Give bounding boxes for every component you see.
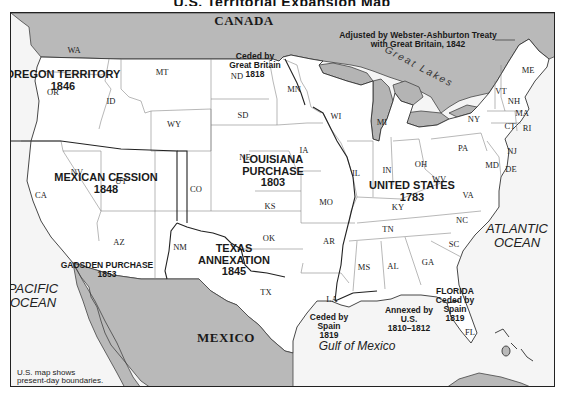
acquisition-label-texas-annexation: TEXASANNEXATION1845 [198, 243, 270, 278]
state-label-az: AZ [113, 238, 124, 247]
water-label-pacific: PACIFICOCEAN [10, 282, 58, 309]
state-label-id: ID [107, 97, 116, 106]
state-label-sc: SC [449, 240, 459, 249]
state-label-la: LA [326, 295, 337, 304]
state-label-wi: WI [331, 112, 342, 121]
state-label-ky: KY [392, 203, 404, 212]
state-label-ne: NE [239, 153, 250, 162]
state-label-vt: VT [495, 87, 506, 96]
country-label-mexico: MEXICO [197, 331, 255, 345]
state-label-ca: CA [35, 191, 47, 200]
country-label-canada: CANADA [214, 14, 273, 28]
state-label-ks: KS [265, 202, 276, 211]
state-label-oh: OH [415, 160, 427, 169]
state-label-ut: UT [115, 177, 126, 186]
state-label-wy: WY [167, 120, 181, 129]
state-label-ar: AR [323, 237, 335, 246]
state-label-nh: NH [508, 97, 520, 106]
state-label-nc: NC [456, 216, 468, 225]
state-label-wa: WA [67, 46, 80, 55]
state-label-md: MD [485, 161, 499, 170]
state-label-ms: MS [358, 263, 370, 272]
state-label-ma: MA [515, 109, 529, 118]
state-label-ny: NY [468, 115, 480, 124]
acquisition-label-mexican-cession: MEXICAN CESSION1848 [54, 172, 157, 195]
acquisition-label-oregon-territory: OREGON TERRITORY1846 [10, 69, 120, 92]
state-label-wv: WV [432, 175, 446, 184]
water-label-gulf: Gulf of Mexico [319, 340, 396, 353]
map-title-fragment: U.S. Territorial Expansion Map [0, 0, 564, 6]
acquisition-label-annexed-by-us: Annexed byU.S.1810–1812 [385, 306, 433, 333]
state-label-ct: CT [505, 122, 516, 131]
state-label-me: ME [522, 66, 535, 75]
state-label-pa: PA [458, 144, 468, 153]
acquisition-label-webster-ashburton: Adjusted by Webster-Ashburton Treatywith… [339, 31, 497, 49]
state-label-mo: MO [319, 198, 333, 207]
state-label-mi: MI [377, 118, 387, 127]
state-label-nv: NV [71, 168, 83, 177]
acquisition-label-ceded-by-spain: Ceded bySpain1819 [310, 313, 348, 340]
acquisition-label-florida: FLORIDACeded bySpain1819 [436, 287, 474, 323]
state-label-al: AL [387, 262, 398, 271]
acquisition-label-united-states-1783: UNITED STATES1783 [369, 180, 455, 203]
map-frame: CANADAMEXICOPACIFICOCEANATLANTICOCEANGul… [10, 12, 555, 387]
state-label-il: IL [352, 169, 360, 178]
acquisition-label-louisiana-purchase: LOUISIANAPURCHASE1803 [242, 154, 304, 189]
state-label-ri: RI [523, 124, 532, 133]
acquisition-label-gadsden-purchase: GADSDEN PURCHASE1853 [61, 261, 154, 279]
state-label-tx: TX [260, 288, 271, 297]
state-label-ia: IA [300, 146, 309, 155]
state-label-ok: OK [263, 234, 275, 243]
state-label-mt: MT [156, 68, 169, 77]
state-label-va: VA [462, 191, 473, 200]
state-label-co: CO [190, 185, 202, 194]
state-label-or: OR [47, 88, 59, 97]
state-label-fl: FL [465, 328, 475, 337]
water-label-atlantic: ATLANTICOCEAN [486, 222, 548, 249]
state-label-sd: SD [238, 111, 249, 120]
state-label-ga: GA [422, 258, 434, 267]
state-label-nj: NJ [507, 147, 516, 156]
state-label-de: DE [505, 165, 516, 174]
map-note: U.S. map showspresent-day boundaries. [17, 369, 103, 386]
state-label-nd: ND [231, 72, 243, 81]
state-label-mn: MN [287, 85, 301, 94]
state-label-tn: TN [382, 225, 393, 234]
state-label-nm: NM [173, 243, 187, 252]
state-label-in: IN [383, 166, 392, 175]
